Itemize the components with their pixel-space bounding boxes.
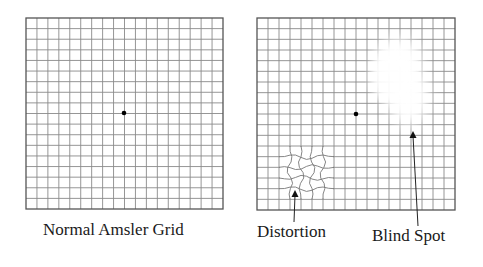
distortion-region [279,146,334,199]
caption-distortion: Distortion [257,223,326,240]
caption-normal-amsler-grid: Normal Amsler Grid [43,221,184,238]
caption-blind-spot: Blind Spot [372,227,445,244]
amsler-grid-figure: Normal Amsler Grid Distortion Blind Spot [0,0,483,267]
